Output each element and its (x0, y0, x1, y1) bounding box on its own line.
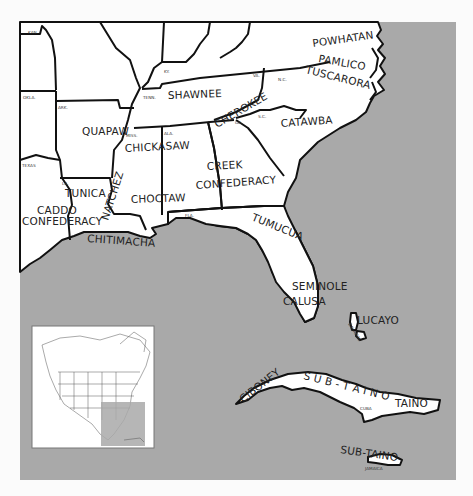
label-caddo-confederacy: CONFEDERACY (22, 215, 103, 227)
label-choctaw: CHOCTAW (131, 191, 187, 205)
label-lucayo: LUCAYO (357, 314, 399, 326)
label-tunica: TUNICA (64, 187, 106, 199)
map: POWHATAN PAMLICO TUSCARORA SHAWNEE CHERO… (0, 0, 473, 496)
label-kan: KAN. (28, 30, 38, 35)
label-jamaica: JAMAICA (364, 466, 383, 471)
label-va: VA. (253, 73, 260, 78)
label-la: LA. (62, 181, 69, 186)
label-ark: ARK. (58, 105, 68, 110)
label-shawnee: SHAWNEE (168, 87, 222, 101)
inset-locator-map (32, 326, 154, 448)
label-seminole: SEMINOLE (292, 280, 348, 292)
label-sc: S.C. (258, 114, 266, 119)
label-cuba: CUBA (360, 406, 372, 411)
label-taino: TAINO (394, 397, 428, 409)
label-ala: ALA. (164, 131, 173, 136)
label-miss: MISS. (126, 133, 138, 138)
label-calusa: CALUSA (283, 295, 326, 307)
label-tenn: TENN. (142, 95, 156, 100)
label-quapaw: QUAPAW (82, 125, 129, 137)
label-ky: KY. (164, 69, 170, 74)
label-okla: OKLA. (23, 95, 36, 100)
label-creek: CREEK (206, 158, 243, 172)
label-nc: N.C. (278, 77, 287, 82)
label-fla: FLA. (185, 213, 194, 218)
label-texas: TEXAS (21, 163, 36, 168)
label-ga: GA. (235, 120, 242, 125)
